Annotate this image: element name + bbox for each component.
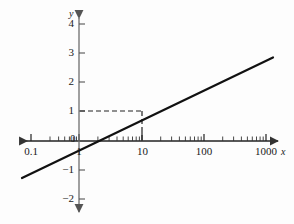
plot-canvas bbox=[0, 0, 294, 224]
x-major-ticks bbox=[31, 132, 266, 141]
y-tick-label-3: 3 bbox=[56, 47, 74, 58]
y-axis-group bbox=[79, 18, 85, 212]
x-tick-label-1000: 1000 bbox=[252, 146, 280, 157]
y-tick-label-neg2: −2 bbox=[56, 193, 74, 204]
y-axis-label: y bbox=[69, 9, 73, 19]
x-tick-label-10: 10 bbox=[135, 146, 150, 157]
y-tick-label-1: 1 bbox=[56, 105, 74, 116]
x-axis-label: x bbox=[281, 147, 285, 157]
origin-label: 0 bbox=[70, 133, 76, 144]
y-tick-label-4: 4 bbox=[56, 18, 74, 29]
log-plot-figure: 4 3 2 1 −1 −2 0 y 0.1 1 10 100 1000 x bbox=[0, 0, 294, 224]
x-minor-ticks bbox=[50, 137, 263, 142]
x-tick-label-0p1: 0.1 bbox=[19, 146, 43, 157]
x-tick-label-1: 1 bbox=[74, 146, 84, 157]
x-tick-label-100: 100 bbox=[193, 146, 215, 157]
y-tick-label-neg1: −1 bbox=[56, 164, 74, 175]
y-tick-label-2: 2 bbox=[56, 76, 74, 87]
x-axis-group bbox=[20, 132, 278, 141]
